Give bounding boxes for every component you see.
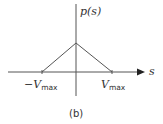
- x-axis-arrow-icon: [137, 69, 145, 76]
- neg-vmax-prefix: −V: [24, 78, 41, 91]
- figure-caption: (b): [69, 109, 83, 119]
- x-axis-label: s: [149, 66, 155, 77]
- y-axis-label: p(s): [80, 6, 101, 17]
- vmax-label: Vmax: [101, 79, 125, 92]
- vmax-sub: max: [109, 83, 125, 92]
- neg-vmax-label: −Vmax: [24, 79, 58, 92]
- triangular-pdf-diagram: [0, 0, 163, 124]
- neg-vmax-sub: max: [41, 83, 57, 92]
- density-curve: [42, 43, 112, 72]
- vmax-prefix: V: [101, 78, 109, 91]
